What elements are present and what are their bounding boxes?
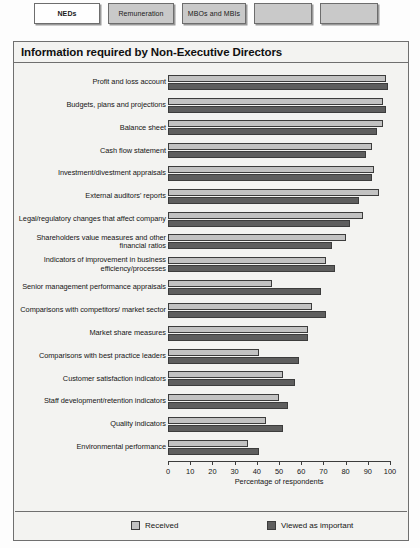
bar-received: [168, 303, 312, 310]
x-axis-tick: [279, 461, 280, 465]
bar-received: [168, 417, 266, 424]
bar-group: [168, 436, 390, 459]
tab-blank-1[interactable]: [254, 3, 312, 24]
bar-group: [168, 390, 390, 413]
legend-label-important: Viewed as important: [281, 521, 353, 530]
table-row: Staff development/retention indicators: [14, 390, 408, 413]
x-axis-tick-label: 30: [230, 467, 238, 476]
bar-received: [168, 394, 279, 401]
legend-swatch-received: [131, 521, 140, 530]
bar-group: [168, 208, 390, 231]
category-label: Environmental performance: [18, 443, 166, 452]
category-label: Balance sheet: [18, 124, 166, 133]
bar-viewed-as-important: [168, 334, 308, 341]
x-axis-tick-label: 10: [186, 467, 194, 476]
bar-viewed-as-important: [168, 242, 332, 249]
bar-group: [168, 276, 390, 299]
table-row: Investment/divestment appraisals: [14, 162, 408, 185]
category-label: Shareholders value measures and other fi…: [18, 234, 166, 251]
bar-viewed-as-important: [168, 425, 283, 432]
tab-mbos-and-mbis[interactable]: MBOs and MBIs: [182, 3, 246, 24]
bar-viewed-as-important: [168, 83, 388, 90]
table-row: Shareholders value measures and other fi…: [14, 231, 408, 254]
screenshot-root: NEDs Remuneration MBOs and MBIs Informat…: [0, 0, 420, 548]
bar-group: [168, 413, 390, 436]
bar-received: [168, 280, 272, 287]
bar-received: [168, 257, 326, 264]
bar-viewed-as-important: [168, 379, 295, 386]
bar-group: [168, 231, 390, 254]
bar-viewed-as-important: [168, 151, 366, 158]
bar-viewed-as-important: [168, 220, 350, 227]
category-label: Senior management performance appraisals: [18, 283, 166, 292]
table-row: Senior management performance appraisals: [14, 276, 408, 299]
bar-group: [168, 94, 390, 117]
category-label: Legal/regulatory changes that affect com…: [18, 215, 166, 224]
table-row: Comparisons with best practice leaders: [14, 345, 408, 368]
x-axis-tick-label: 70: [319, 467, 327, 476]
bar-received: [168, 120, 383, 127]
bar-group: [168, 254, 390, 277]
table-row: Comparisons with competitors/ market sec…: [14, 299, 408, 322]
category-label: Cash flow statement: [18, 147, 166, 156]
x-axis-tick: [390, 461, 391, 465]
x-axis-tick: [346, 461, 347, 465]
bar-received: [168, 234, 346, 241]
table-row: Environmental performance: [14, 436, 408, 459]
table-row: Budgets, plans and projections: [14, 94, 408, 117]
bar-received: [168, 143, 372, 150]
x-axis-tick-label: 50: [275, 467, 283, 476]
legend-item-important: Viewed as important: [267, 521, 353, 530]
bar-viewed-as-important: [168, 357, 299, 364]
bar-group: [168, 139, 390, 162]
table-row: Balance sheet: [14, 117, 408, 140]
chart-legend: Received Viewed as important: [15, 511, 407, 539]
bar-received: [168, 98, 383, 105]
x-axis-title: Percentage of respondents: [168, 477, 390, 486]
category-label: Indicators of improvement in business ef…: [18, 256, 166, 273]
tab-neds-label: NEDs: [57, 10, 76, 17]
plot-area: Profit and loss accountBudgets, plans an…: [14, 63, 408, 542]
chart-panel: Information required by Non-Executive Di…: [13, 41, 409, 541]
bar-group: [168, 117, 390, 140]
category-label: Customer satisfaction indicators: [18, 375, 166, 384]
category-label: Budgets, plans and projections: [18, 101, 166, 110]
bar-viewed-as-important: [168, 288, 321, 295]
bar-received: [168, 166, 374, 173]
category-label: External auditors' reports: [18, 192, 166, 201]
x-axis-tick-label: 60: [297, 467, 305, 476]
bar-received: [168, 349, 259, 356]
category-label: Quality indicators: [18, 420, 166, 429]
x-axis-tick-label: 40: [253, 467, 261, 476]
x-axis-tick: [190, 461, 191, 465]
category-label: Market share measures: [18, 329, 166, 338]
category-label: Comparisons with competitors/ market sec…: [18, 306, 166, 315]
bar-group: [168, 368, 390, 391]
legend-swatch-important: [267, 521, 276, 530]
bar-received: [168, 212, 363, 219]
bar-received: [168, 75, 386, 82]
bar-viewed-as-important: [168, 174, 372, 181]
category-label: Comparisons with best practice leaders: [18, 352, 166, 361]
x-axis-tick-label: 0: [166, 467, 170, 476]
bar-viewed-as-important: [168, 311, 326, 318]
tab-strip: NEDs Remuneration MBOs and MBIs: [0, 3, 420, 29]
bar-viewed-as-important: [168, 128, 377, 135]
tab-blank-2[interactable]: [320, 3, 378, 24]
table-row: Quality indicators: [14, 413, 408, 436]
table-row: External auditors' reports: [14, 185, 408, 208]
bar-group: [168, 162, 390, 185]
bar-group: [168, 71, 390, 94]
bar-viewed-as-important: [168, 106, 386, 113]
tab-remuneration[interactable]: Remuneration: [108, 3, 174, 24]
legend-label-received: Received: [145, 521, 178, 530]
x-axis-tick: [301, 461, 302, 465]
tab-mbos-and-mbis-label: MBOs and MBIs: [188, 10, 240, 17]
x-axis-tick: [257, 461, 258, 465]
x-axis-tick: [212, 461, 213, 465]
bar-received: [168, 189, 379, 196]
tab-neds[interactable]: NEDs: [34, 3, 100, 24]
table-row: Cash flow statement: [14, 139, 408, 162]
bar-viewed-as-important: [168, 197, 359, 204]
bar-rows: Profit and loss accountBudgets, plans an…: [14, 71, 408, 459]
